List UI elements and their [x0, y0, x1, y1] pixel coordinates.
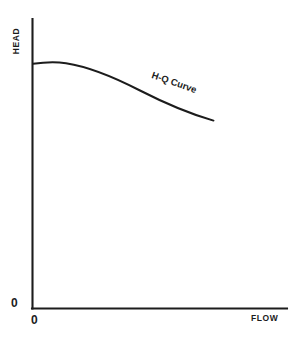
x-axis-origin-tick-label: 0	[31, 314, 38, 326]
pump-hq-curve-figure: HEAD FLOW 0 0 H-Q Curve	[0, 0, 294, 342]
plot-canvas	[0, 0, 294, 342]
y-axis-title: HEAD	[12, 28, 21, 55]
y-axis-origin-tick-label: 0	[11, 297, 18, 309]
x-axis-title: FLOW	[251, 314, 278, 323]
